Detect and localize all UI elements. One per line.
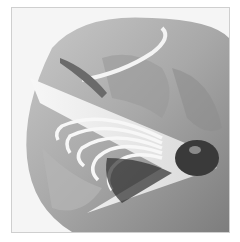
photo-hand-feather-stick xyxy=(12,8,229,232)
charred-tip xyxy=(175,140,219,176)
photo-frame xyxy=(11,7,230,233)
